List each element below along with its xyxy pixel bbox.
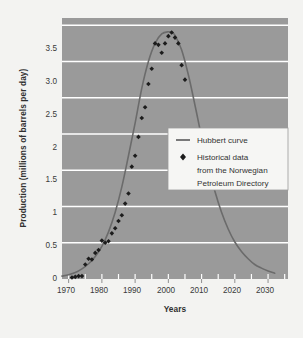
x-tick-label-2030: 2030	[256, 286, 275, 295]
x-tick-label-2000: 2000	[157, 286, 176, 295]
y-tick-label-0: 0	[52, 274, 57, 283]
chart-figure: 0 0.5 1 1.5 2 2.5 3.0 3.5 1970 1980 1990…	[0, 0, 303, 338]
legend-label-historical-1: Historical data	[197, 153, 249, 162]
y-axis-title: Production (millions of barrels per day)	[18, 68, 28, 227]
y-tick-label-3-5: 3.5	[46, 44, 58, 53]
y-tick-label-1-5: 1.5	[46, 175, 58, 184]
x-tick-label-1990: 1990	[123, 286, 142, 295]
y-tick-label-1: 1	[52, 208, 57, 217]
y-tick-label-2: 2	[52, 143, 57, 152]
x-tick-label-1970: 1970	[57, 286, 76, 295]
x-tick-label-2020: 2020	[223, 286, 242, 295]
legend-label-hubbert: Hubbert curve	[197, 136, 248, 145]
x-major-ticks	[69, 279, 268, 283]
y-tick-label-2-5: 2.5	[46, 110, 58, 119]
chart-legend: Hubbert curve Historical data from the N…	[168, 128, 288, 190]
x-tick-label-2010: 2010	[190, 286, 209, 295]
hubbert-curve-chart: 0 0.5 1 1.5 2 2.5 3.0 3.5 1970 1980 1990…	[0, 0, 303, 338]
legend-label-historical-2: from the Norwegian	[197, 166, 268, 175]
x-axis-title: Years	[164, 304, 187, 314]
legend-label-historical-3: Petroleum Directory	[197, 179, 269, 188]
y-tick-label-3: 3.0	[46, 77, 58, 86]
y-tick-label-0-5: 0.5	[46, 241, 58, 250]
x-tick-label-1980: 1980	[90, 286, 109, 295]
